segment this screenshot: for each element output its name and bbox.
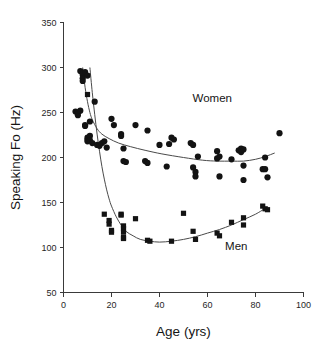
data-point-men-13 [133,216,138,221]
data-point-women-60 [262,166,268,172]
data-point-men-16 [169,239,174,244]
y-tick-label-50: 50 [46,288,56,298]
data-point-men-18 [191,229,196,234]
data-point-men-10 [121,230,126,235]
data-point-women-51 [228,156,234,162]
data-point-women-26 [111,122,117,128]
figure-container: 50100150200250300350020406080100 WomenMe… [0,0,333,348]
data-point-women-3 [77,108,83,114]
data-point-women-19 [92,99,98,105]
data-point-men-5 [109,230,114,235]
data-point-women-47 [214,148,220,154]
data-point-women-23 [101,138,107,144]
x-tick-label-80: 80 [250,300,260,310]
data-point-women-34 [144,160,150,166]
data-point-men-15 [147,239,152,244]
data-point-women-10 [82,123,88,129]
data-point-men-22 [229,220,234,225]
data-point-women-46 [195,154,201,160]
data-point-women-61 [264,174,270,180]
data-point-women-35 [144,127,150,133]
y-tick-label-250: 250 [41,108,56,118]
data-point-men-17 [181,211,186,216]
y-tick-label-200: 200 [41,153,56,163]
data-point-women-56 [240,163,246,169]
data-point-women-38 [166,141,172,147]
data-point-women-15 [87,118,93,124]
data-point-women-42 [190,142,196,148]
y-axis-title: Speaking Fo (Hz) [8,105,23,210]
data-point-women-49 [216,154,222,160]
data-point-women-24 [104,145,110,151]
data-point-men-1 [102,212,107,217]
series-annotation-men: Men [225,240,247,252]
data-point-women-7 [80,78,86,84]
x-tick-label-100: 100 [296,300,311,310]
data-point-women-30 [120,145,126,151]
data-point-women-59 [262,154,268,160]
data-point-women-55 [240,146,246,152]
x-tick-label-60: 60 [202,300,212,310]
data-point-men-23 [241,215,246,220]
axes-group: 50100150200250300350020406080100 [41,18,311,310]
data-point-men-0 [85,92,90,97]
data-points-group [72,68,282,244]
data-point-men-24 [241,222,246,227]
data-point-women-25 [108,116,114,122]
data-point-women-31 [123,159,129,165]
data-point-men-19 [193,237,198,242]
y-tick-label-300: 300 [41,63,56,73]
scatter-plot: 50100150200250300350020406080100 WomenMe… [0,0,333,348]
data-point-men-21 [217,233,222,238]
y-tick-label-100: 100 [41,243,56,253]
data-point-women-40 [171,136,177,142]
x-tick-label-0: 0 [61,300,66,310]
data-point-women-45 [192,173,198,179]
data-point-men-7 [119,213,124,218]
data-point-men-12 [121,236,126,241]
series-annotation-women: Women [193,92,232,104]
x-tick-label-20: 20 [106,300,116,310]
y-tick-label-150: 150 [41,198,56,208]
x-tick-label-40: 40 [154,300,164,310]
x-axis-title: Age (yrs) [156,324,211,339]
y-tick-label-350: 350 [41,18,56,28]
data-point-women-57 [240,177,246,183]
data-point-women-28 [118,133,124,139]
data-point-women-62 [276,130,282,136]
fit-curve-women [83,68,275,162]
data-point-women-32 [132,122,138,128]
annotation-labels-group: WomenMen [193,92,248,253]
data-point-women-36 [156,142,162,148]
data-point-women-37 [164,163,170,169]
data-point-women-50 [216,173,222,179]
data-point-men-27 [265,207,270,212]
data-point-men-3 [107,222,112,227]
data-point-women-11 [84,73,90,79]
